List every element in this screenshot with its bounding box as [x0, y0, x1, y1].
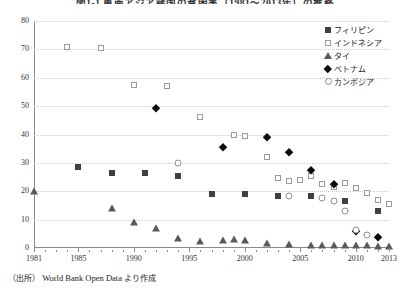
source-prefix: （出所） [8, 274, 40, 283]
data-point [231, 132, 237, 138]
x-tick-2010 [356, 248, 357, 252]
data-point [374, 233, 382, 241]
data-point [330, 198, 337, 205]
x-tick-2011 [367, 250, 368, 253]
y-tick-label-70: 70 [0, 45, 29, 53]
data-point [319, 195, 326, 202]
legend-item-2[interactable]: タイ [322, 49, 408, 62]
data-point [318, 241, 326, 248]
data-point [374, 242, 382, 249]
filled-triangle-icon [322, 52, 334, 59]
x-tick-1986 [89, 250, 90, 253]
x-tick-label-2013: 2013 [381, 255, 397, 263]
data-point [363, 242, 371, 249]
legend-item-4[interactable]: カンボジア [322, 75, 408, 88]
data-point [175, 173, 181, 179]
data-point [263, 239, 271, 246]
data-point [130, 219, 138, 226]
source-note: （出所） World Bank Open Data より作成 [8, 272, 156, 283]
chart-title: 図1-1 東南アジア諸国の貧困率（1981～2013年）の推移 [0, 0, 410, 4]
data-point [75, 164, 81, 170]
data-point [341, 208, 348, 215]
x-tick-1998 [223, 250, 224, 253]
data-point [219, 143, 227, 151]
gridline-80 [34, 21, 389, 22]
x-tick-2012 [378, 250, 379, 253]
data-point [64, 44, 70, 50]
data-point [98, 45, 104, 51]
x-tick-1984 [67, 250, 68, 253]
x-tick-1989 [123, 250, 124, 253]
data-point [131, 82, 137, 88]
data-point [174, 235, 182, 242]
data-point [307, 241, 315, 248]
data-point [242, 191, 248, 197]
data-point [30, 188, 38, 195]
data-point [152, 225, 160, 232]
y-tick-label-30: 30 [0, 159, 29, 167]
data-point [275, 175, 281, 181]
data-point [175, 159, 182, 166]
open-square-icon [322, 40, 334, 46]
x-tick-label-1995: 1995 [181, 255, 197, 263]
x-tick-label-2000: 2000 [237, 255, 253, 263]
legend-item-1[interactable]: インドネシア [322, 36, 408, 49]
y-tick-label-80: 80 [0, 17, 29, 25]
x-tick-1994 [178, 250, 179, 253]
x-tick-1997 [212, 250, 213, 253]
x-tick-label-2005: 2005 [292, 255, 308, 263]
data-point [285, 148, 293, 156]
x-tick-2005 [300, 248, 301, 252]
x-tick-1999 [234, 250, 235, 253]
legend-item-label: フィリピン [334, 24, 374, 35]
x-tick-2000 [245, 248, 246, 252]
data-point [197, 114, 203, 120]
x-tick-2008 [334, 250, 335, 253]
data-point [375, 197, 381, 203]
data-point [108, 205, 116, 212]
data-point [330, 242, 338, 249]
data-point [308, 193, 314, 199]
data-point [275, 193, 281, 199]
x-tick-label-1981: 1981 [26, 255, 42, 263]
x-tick-1981 [34, 248, 35, 252]
x-tick-1995 [189, 248, 190, 252]
data-point [286, 192, 293, 199]
legend-item-label: ベトナム [334, 63, 366, 74]
x-tick-2003 [278, 250, 279, 253]
y-tick-label-0: 0 [0, 244, 29, 252]
x-tick-1996 [200, 250, 201, 253]
x-tick-2002 [267, 250, 268, 253]
data-point [341, 242, 349, 249]
gridline-10 [34, 220, 389, 221]
legend-item-3[interactable]: ベトナム [322, 62, 408, 75]
data-point [353, 185, 359, 191]
data-point [219, 237, 227, 244]
x-tick-2006 [311, 250, 312, 253]
gridline-40 [34, 135, 389, 136]
data-point [196, 237, 204, 244]
y-tick-label-40: 40 [0, 131, 29, 139]
x-tick-1992 [156, 250, 157, 253]
source-text: World Bank Open Data [42, 273, 122, 283]
x-tick-1993 [167, 250, 168, 253]
data-point [297, 177, 303, 183]
data-point [264, 154, 270, 160]
source-suffix: より作成 [124, 274, 156, 283]
x-tick-2013 [389, 248, 390, 252]
gridline-30 [34, 163, 389, 164]
data-point [285, 240, 293, 247]
open-circle-icon [322, 78, 334, 85]
legend: フィリピンインドネシアタイベトナムカンボジア [322, 23, 408, 88]
x-tick-1990 [134, 248, 135, 252]
gridline-50 [34, 106, 389, 107]
data-point [242, 133, 248, 139]
legend-item-0[interactable]: フィリピン [322, 23, 408, 36]
data-point [142, 170, 148, 176]
data-point [109, 170, 115, 176]
y-tick-label-60: 60 [0, 74, 29, 82]
data-point [209, 191, 215, 197]
x-tick-label-2010: 2010 [348, 255, 364, 263]
data-point [230, 235, 238, 242]
x-tick-2007 [322, 250, 323, 253]
